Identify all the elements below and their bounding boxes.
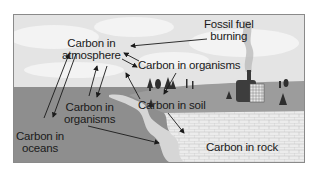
label-oceans: Carbon in oceans [16, 130, 64, 154]
label-oceans-line2: oceans [16, 142, 64, 154]
label-oceans-line1: Carbon in [16, 130, 64, 142]
label-organisms-sea-line2: organisms [64, 113, 115, 125]
label-atmosphere: Carbon in atmosphere [62, 37, 121, 61]
label-organisms-sea: Carbon in organisms [64, 101, 115, 125]
label-organisms-land: Carbon in organisms [138, 59, 240, 71]
label-organisms-sea-line1: Carbon in [64, 101, 115, 113]
rock-layer [164, 111, 304, 162]
label-fossil-fuel: Fossil fuel burning [204, 18, 254, 42]
label-atmosphere-line1: Carbon in [62, 37, 121, 49]
label-fossil-line2: burning [204, 30, 254, 42]
carbon-cycle-diagram: Carbon in atmosphere Fossil fuel burning… [13, 14, 305, 163]
label-soil: Carbon in soil [138, 99, 206, 111]
label-fossil-line1: Fossil fuel [204, 18, 254, 30]
label-rock: Carbon in rock [206, 141, 278, 153]
label-atmosphere-line2: atmosphere [62, 49, 121, 61]
